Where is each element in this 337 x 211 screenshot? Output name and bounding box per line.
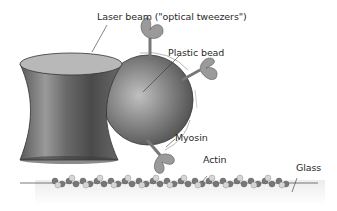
- diagram-artwork: [0, 0, 337, 211]
- myosin-molecule-bottom: [147, 140, 174, 173]
- label-myosin: Myosin: [175, 133, 208, 143]
- laser-beam: [20, 53, 122, 164]
- label-actin: Actin: [203, 155, 226, 165]
- myosin-molecule-top: [141, 18, 163, 58]
- label-plastic-bead: Plastic bead: [168, 48, 224, 58]
- label-laser-beam: Laser beam ("optical tweezers"): [97, 12, 247, 22]
- label-glass: Glass: [296, 163, 321, 173]
- optical-tweezers-diagram: Laser beam ("optical tweezers") Plastic …: [0, 0, 337, 211]
